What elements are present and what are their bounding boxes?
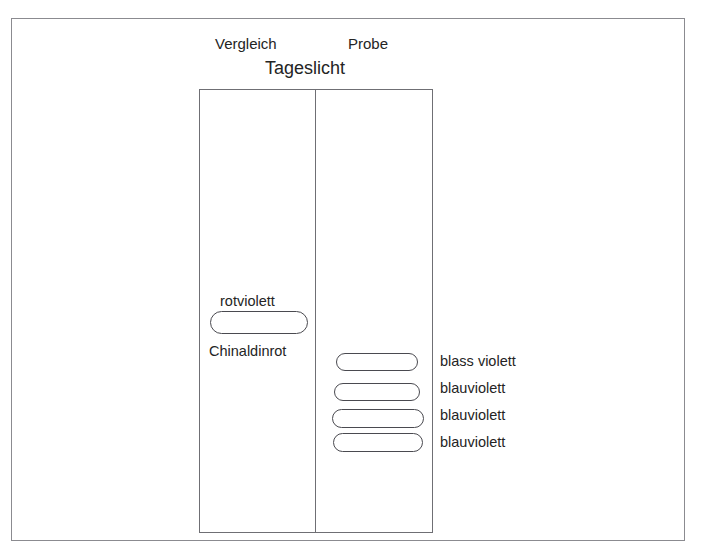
column-header-probe: Probe bbox=[348, 36, 388, 52]
reference-spot-color-label: rotviolett bbox=[220, 293, 275, 309]
figure-canvas: Vergleich Probe Tageslicht rotviolett Ch… bbox=[0, 0, 703, 560]
reference-spot-substance-label: Chinaldinrot bbox=[209, 343, 286, 359]
sample-spot-1 bbox=[336, 353, 418, 371]
column-header-vergleich: Vergleich bbox=[215, 36, 277, 52]
sample-spot-1-label: blass violett bbox=[440, 353, 516, 369]
sample-spot-4-label: blauviolett bbox=[440, 434, 505, 450]
sample-spot-4 bbox=[333, 433, 423, 452]
sample-spot-3-label: blauviolett bbox=[440, 407, 505, 423]
sample-spot-3 bbox=[332, 409, 424, 428]
reference-spot-chinaldinrot bbox=[210, 311, 308, 334]
lane-divider bbox=[315, 89, 316, 533]
figure-title: Tageslicht bbox=[265, 58, 345, 78]
sample-spot-2 bbox=[334, 383, 420, 401]
sample-spot-2-label: blauviolett bbox=[440, 380, 505, 396]
